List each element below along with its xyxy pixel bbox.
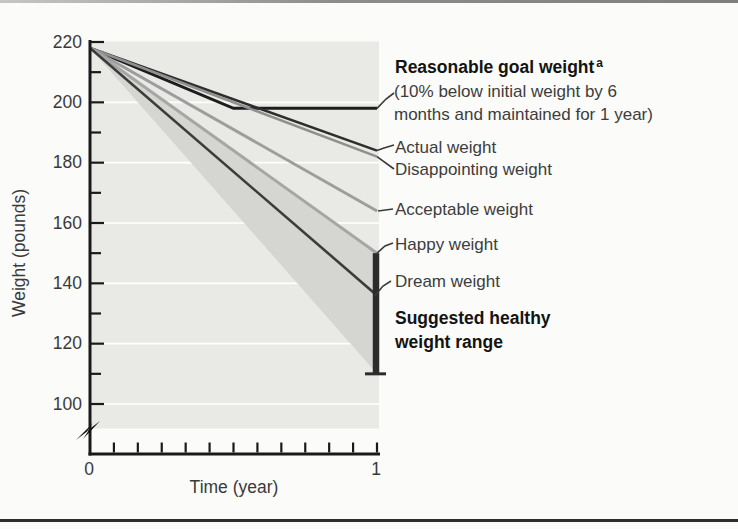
y-tick-label-100: 100 <box>36 394 82 415</box>
annotation-healthy-range: Suggested healthy weight range <box>395 306 551 354</box>
bottom-rule <box>0 519 738 522</box>
leader-acceptable-weight <box>378 209 393 211</box>
x-tick-label-1: 1 <box>361 459 391 480</box>
annotation-dream-weight: Dream weight <box>395 271 500 292</box>
x-axis-title: Time (year) <box>158 477 310 499</box>
annotation-happy-weight: Happy weight <box>395 234 498 255</box>
y-tick-label-140: 140 <box>36 273 82 294</box>
x-tick-label-0: 0 <box>74 459 104 480</box>
annotation-reasonable-goal-title: Reasonable goal weighta <box>395 53 603 78</box>
annotation-healthy-range-line1: Suggested healthy <box>395 306 551 330</box>
annotation-reasonable-goal-text: Reasonable goal weight <box>395 57 594 77</box>
leader-disappointing-weight <box>377 157 394 169</box>
y-axis-break-icon <box>76 421 100 440</box>
leader-happy-weight <box>377 243 393 253</box>
annotation-reasonable-desc-line1: (10% below initial weight by 6 <box>394 80 653 103</box>
annotation-disappointing-weight: Disappointing weight <box>395 159 552 180</box>
annotation-reasonable-desc-line2: months and maintained for 1 year) <box>394 103 653 126</box>
annotation-reasonable-goal-description: (10% below initial weight by 6 months an… <box>394 80 653 126</box>
y-tick-label-160: 160 <box>36 213 82 234</box>
leader-reasonable-goal <box>377 93 394 108</box>
y-tick-label-180: 180 <box>36 152 82 173</box>
y-axis-title: Weight (pounds) <box>9 161 31 345</box>
annotation-actual-weight: Actual weight <box>395 137 496 158</box>
footnote-marker-a: a <box>596 56 603 70</box>
y-tick-label-220: 220 <box>36 32 82 53</box>
y-tick-label-200: 200 <box>36 92 82 113</box>
annotation-acceptable-weight: Acceptable weight <box>395 199 533 220</box>
leader-actual-weight <box>377 145 394 151</box>
y-tick-label-120: 120 <box>36 333 82 354</box>
annotation-healthy-range-line2: weight range <box>395 330 551 354</box>
weight-loss-expectations-figure: Weight (pounds) Time (year) Reasonable g… <box>0 0 738 529</box>
